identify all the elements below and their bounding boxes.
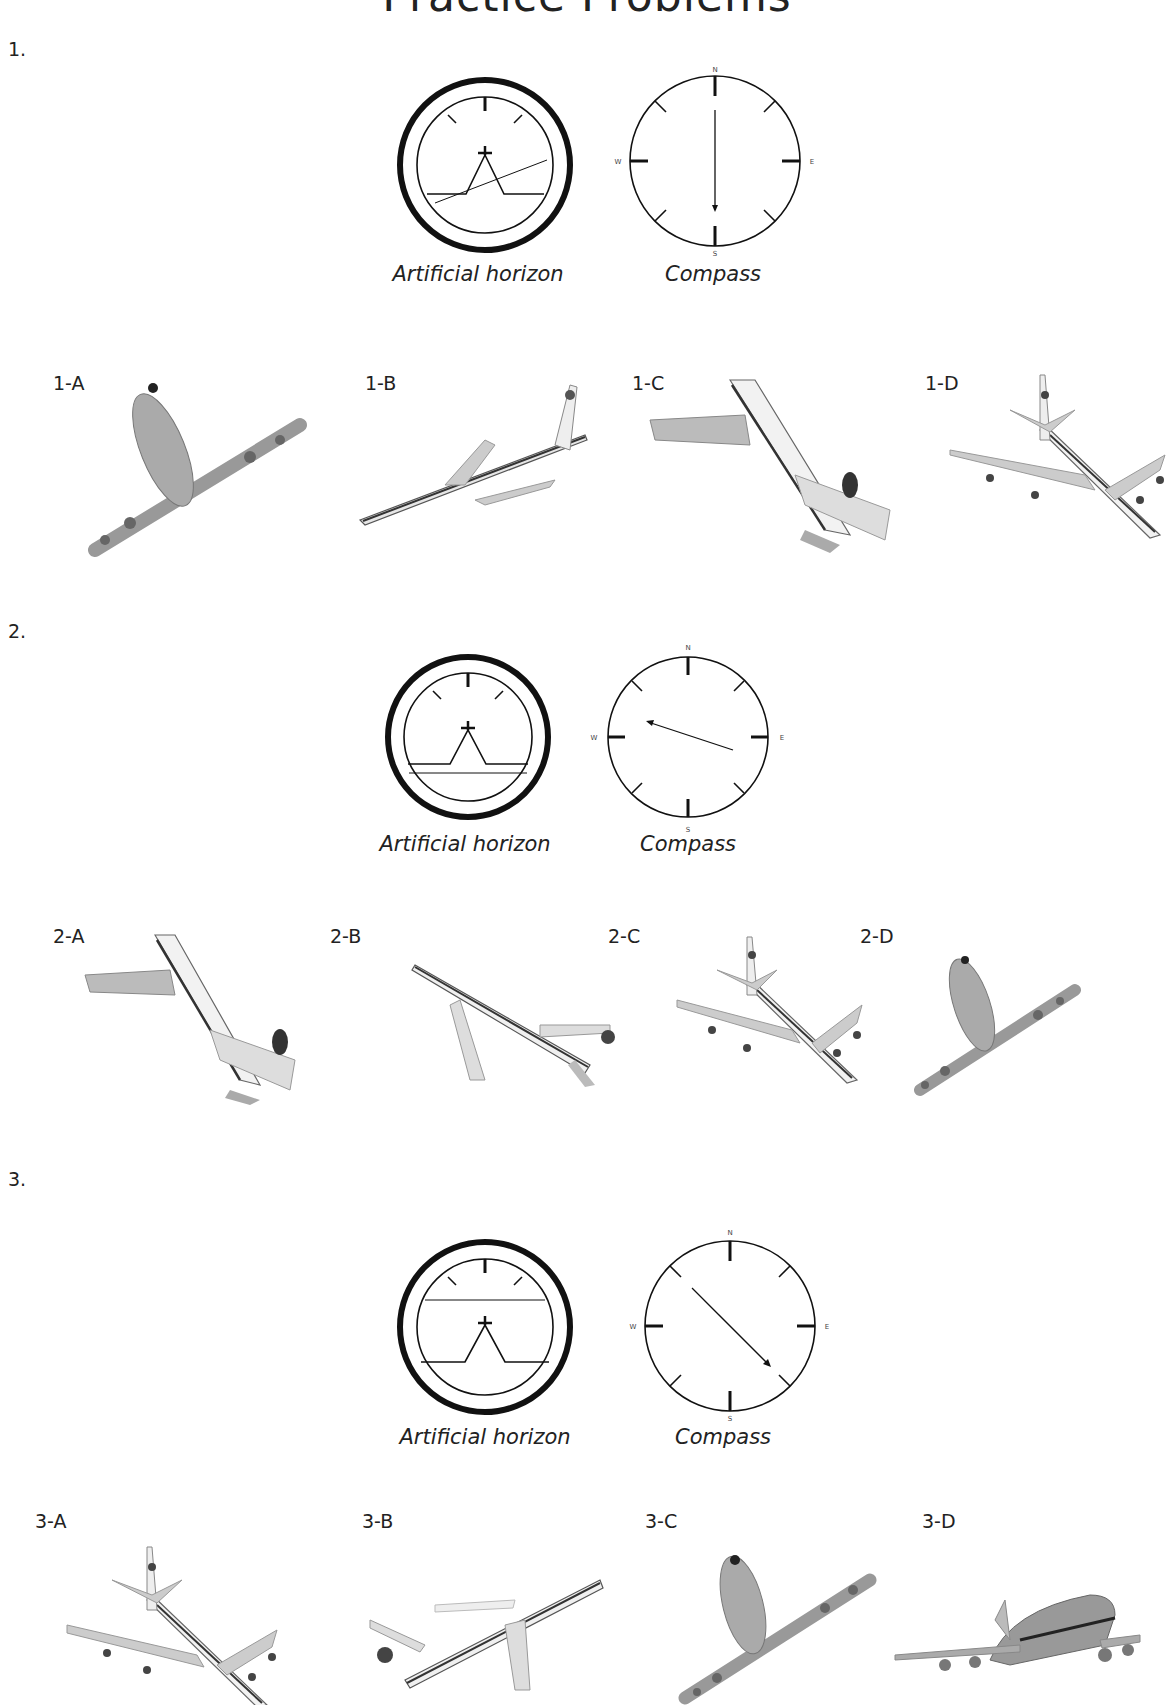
- compass-icon: N S W E: [600, 640, 775, 835]
- svg-text:E: E: [810, 158, 814, 166]
- svg-text:N: N: [727, 1229, 732, 1237]
- horizon-caption: Artificial horizon: [392, 262, 563, 286]
- horizon-caption: Artificial horizon: [379, 832, 550, 856]
- compass-caption: Compass: [640, 832, 736, 856]
- artificial-horizon-icon: [383, 652, 553, 822]
- option-label[interactable]: 2-B: [330, 925, 361, 947]
- option-label[interactable]: 2-C: [608, 925, 640, 947]
- problem-number: 2.: [8, 620, 26, 642]
- svg-text:E: E: [780, 734, 784, 742]
- option-label[interactable]: 3-B: [362, 1510, 393, 1532]
- svg-text:N: N: [712, 66, 717, 74]
- artificial-horizon-icon: [395, 1237, 575, 1417]
- problem-number: 3.: [8, 1168, 26, 1190]
- option-label[interactable]: 2-D: [860, 925, 894, 947]
- compass-caption: Compass: [675, 1425, 771, 1449]
- svg-text:S: S: [728, 1415, 733, 1423]
- airplane-top-icon[interactable]: [672, 935, 872, 1085]
- airplane-top-icon[interactable]: [945, 370, 1170, 540]
- option-label[interactable]: 1-A: [53, 372, 85, 394]
- airplane-underside-icon[interactable]: [85, 380, 305, 555]
- airplane-front-icon[interactable]: [890, 1590, 1140, 1680]
- airplane-side-icon[interactable]: [365, 1560, 605, 1700]
- svg-text:W: W: [591, 734, 598, 742]
- svg-text:W: W: [615, 158, 622, 166]
- option-label[interactable]: 3-D: [922, 1510, 956, 1532]
- svg-text:N: N: [685, 644, 690, 652]
- compass-icon: N S W E: [640, 1225, 820, 1425]
- airplane-side-icon[interactable]: [355, 375, 595, 525]
- horizon-caption: Artificial horizon: [399, 1425, 570, 1449]
- compass-caption: Compass: [665, 262, 761, 286]
- svg-text:S: S: [713, 250, 718, 258]
- airplane-rear-icon[interactable]: [80, 930, 330, 1105]
- airplane-rear-icon[interactable]: [645, 375, 915, 555]
- option-label[interactable]: 3-A: [35, 1510, 67, 1532]
- airplane-top-icon[interactable]: [62, 1545, 282, 1705]
- airplane-underside-icon[interactable]: [910, 955, 1080, 1095]
- airplane-side-icon[interactable]: [410, 955, 625, 1090]
- svg-text:E: E: [825, 1323, 829, 1331]
- artificial-horizon-icon: [395, 75, 575, 255]
- option-label[interactable]: 3-C: [645, 1510, 677, 1532]
- compass-icon: N S W E: [625, 60, 805, 260]
- problem-number: 1.: [8, 38, 26, 60]
- page-title: Practice Problems: [0, 0, 1174, 21]
- airplane-underside-icon[interactable]: [675, 1560, 875, 1700]
- svg-text:W: W: [630, 1323, 637, 1331]
